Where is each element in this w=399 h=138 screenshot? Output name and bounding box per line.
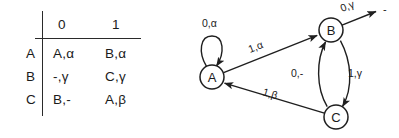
table-row-header-c: C: [26, 93, 36, 107]
table-column-header-0: 0: [58, 18, 66, 32]
table-cell-b-0: -,γ: [53, 70, 69, 84]
edge-c-to-b: [319, 42, 328, 107]
state-node-label-b: B: [327, 23, 336, 38]
transition-table: 0 1 A A,α B,α B -,γ C,γ C B,- A,β: [0, 0, 190, 138]
state-node-label-c: C: [331, 110, 340, 125]
edge-label-a-to-b: 1,α: [246, 38, 264, 55]
edge-label-b-to-c: 1,γ: [348, 67, 363, 79]
table-cell-a-1: B,α: [105, 47, 126, 61]
edge-label-c-to-b: 0,-: [291, 67, 304, 79]
table-cell-a-0: A,α: [53, 47, 74, 61]
table-cell-c-1: A,β: [105, 93, 126, 107]
table-column-header-1: 1: [112, 18, 120, 32]
state-diagram: 0,α 1,α 0,γ - 1,γ 0,- 1,β A B C: [190, 0, 399, 138]
edge-a-self-loop: [201, 36, 222, 66]
edge-label-b-to-sink: 0,γ: [338, 0, 356, 14]
table-row-header-a: A: [26, 47, 35, 61]
table-cell-c-0: B,-: [53, 93, 71, 107]
table-row-header-b: B: [26, 70, 35, 84]
table-cell-b-1: C,γ: [105, 70, 126, 84]
edge-b-to-sink: [341, 12, 376, 26]
sink-dash-label: -: [383, 3, 387, 15]
table-horizontal-rule: [35, 38, 141, 39]
table-vertical-rule: [42, 11, 43, 116]
edge-label-a-self: 0,α: [202, 17, 217, 29]
figure-root: 0 1 A A,α B,α B -,γ C,γ C B,- A,β 0,α 1,…: [0, 0, 399, 138]
state-node-label-a: A: [208, 70, 217, 85]
